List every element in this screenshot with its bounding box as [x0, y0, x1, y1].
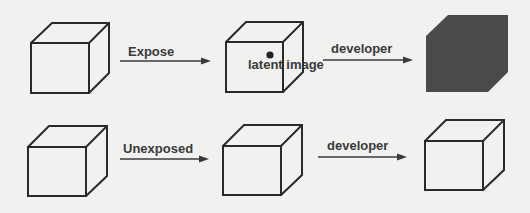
cube-developed-dark [426, 15, 508, 92]
arrow-developer-bottom: developer [318, 138, 407, 161]
arrow-developer-top: developer [323, 41, 413, 64]
cube-unexposed-start [31, 23, 109, 93]
row-exposed: Expose latent image developer [31, 15, 508, 93]
cube-developed-clear [425, 120, 504, 190]
arrow-unexposed: Unexposed [120, 141, 209, 163]
arrow-label-unexposed: Unexposed [123, 141, 193, 156]
arrow-label-expose: Expose [128, 44, 174, 59]
arrow-expose: Expose [120, 44, 211, 65]
row-unexposed: Unexposed developer [28, 120, 504, 196]
cube-latent-image: latent image [226, 22, 324, 92]
cube-unexposed-middle [223, 125, 302, 195]
cube-unexposed-start-bottom [28, 126, 107, 196]
latent-image-label: latent image [248, 57, 324, 72]
arrow-label-developer-top: developer [331, 41, 392, 56]
arrow-label-developer-bottom: developer [327, 138, 388, 153]
film-development-diagram: Expose latent image developer [0, 0, 530, 213]
